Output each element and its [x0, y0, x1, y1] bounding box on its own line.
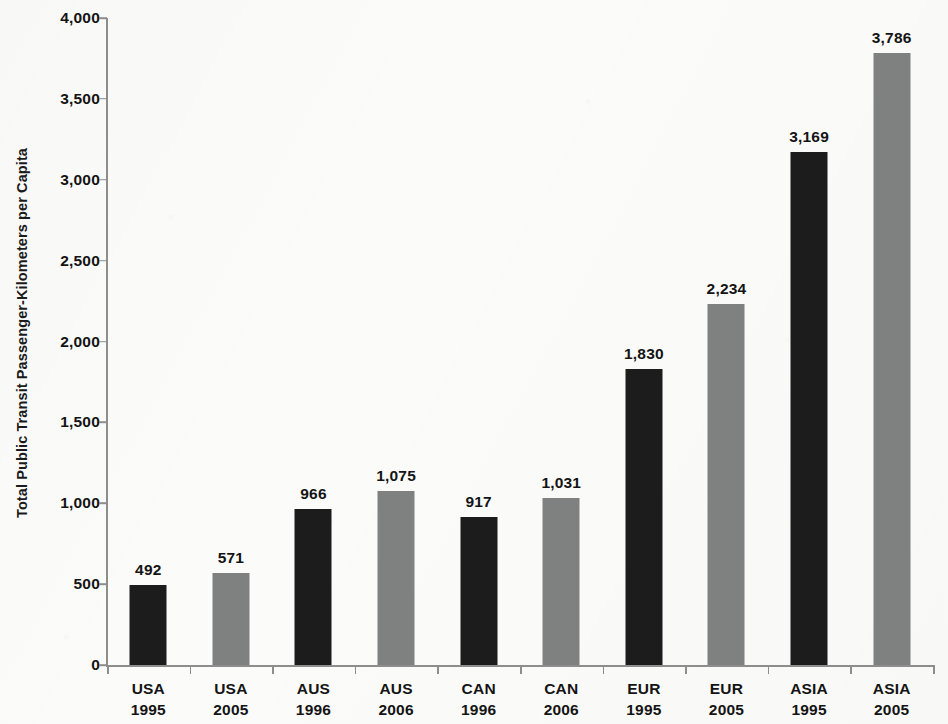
x-axis-tick-mark [850, 665, 852, 674]
category-region: ASIA [790, 680, 828, 697]
x-axis-category-label: ASIA1995 [768, 678, 851, 720]
bar [791, 152, 828, 665]
bar-value-label: 1,031 [541, 474, 581, 492]
x-axis-tick-mark [768, 665, 770, 674]
category-year: 1995 [768, 699, 851, 720]
bar [130, 585, 167, 665]
x-axis-tick-mark [272, 665, 274, 674]
y-axis-tick-label: 1,000 [38, 494, 100, 512]
bar-group: 3,169 [768, 18, 851, 665]
x-axis-category-label: AUS2006 [355, 678, 438, 720]
category-year: 1995 [107, 699, 190, 720]
bar-value-label: 571 [218, 549, 244, 567]
bar-value-label: 1,830 [624, 345, 664, 363]
bar-value-label: 917 [465, 493, 491, 511]
y-axis-tick-label: 2,000 [38, 333, 100, 351]
bar [378, 491, 415, 665]
bar [543, 498, 580, 665]
bar [212, 573, 249, 665]
bar-value-label: 492 [135, 561, 161, 579]
y-axis-tick-mark [99, 17, 107, 19]
x-axis-category-label: AUS1996 [272, 678, 355, 720]
bar [708, 304, 745, 665]
x-axis-category-label: EUR1995 [603, 678, 686, 720]
y-axis-tick-mark [99, 664, 107, 666]
x-axis-tick-mark [107, 665, 109, 674]
bar-value-label: 3,169 [789, 128, 829, 146]
category-region: AUS [297, 680, 330, 697]
category-year: 2005 [685, 699, 768, 720]
bar-group: 1,830 [603, 18, 686, 665]
bar-group: 917 [437, 18, 520, 665]
bar-group: 1,075 [355, 18, 438, 665]
category-year: 2006 [520, 699, 603, 720]
category-region: USA [132, 680, 165, 697]
bar-group: 966 [272, 18, 355, 665]
bar-value-label: 1,075 [376, 467, 416, 485]
bar-group: 2,234 [685, 18, 768, 665]
x-axis-category-label: CAN2006 [520, 678, 603, 720]
category-year: 2006 [355, 699, 438, 720]
x-axis-tick-mark [933, 665, 935, 674]
bar-group: 1,031 [520, 18, 603, 665]
y-axis-tick-labels: 4,0003,5003,0002,5002,0001,5001,0005000 [30, 0, 100, 724]
x-axis-category-label: EUR2005 [685, 678, 768, 720]
bar-group: 492 [107, 18, 190, 665]
bar [295, 509, 332, 665]
category-year: 1996 [437, 699, 520, 720]
x-axis-tick-mark [355, 665, 357, 674]
x-axis-category-labels: USA1995USA2005AUS1996AUS2006CAN1996CAN20… [107, 678, 933, 724]
y-axis-tick-mark [99, 179, 107, 181]
y-axis-tick-label: 2,500 [38, 252, 100, 270]
bar [625, 369, 662, 665]
bar-group: 3,786 [850, 18, 933, 665]
category-region: EUR [627, 680, 660, 697]
x-axis-category-label: USA1995 [107, 678, 190, 720]
bar-value-label: 3,786 [872, 29, 912, 47]
y-axis-tick-mark [99, 502, 107, 504]
x-axis-category-label: ASIA2005 [850, 678, 933, 720]
category-region: ASIA [873, 680, 911, 697]
y-axis-tick-label: 3,000 [38, 171, 100, 189]
x-axis-tick-mark [603, 665, 605, 674]
category-year: 1996 [272, 699, 355, 720]
category-region: CAN [544, 680, 578, 697]
bar-value-label: 2,234 [707, 280, 747, 298]
y-axis-tick-mark [99, 583, 107, 585]
y-axis-tick-label: 1,500 [38, 413, 100, 431]
y-axis-tick-label: 0 [38, 656, 100, 674]
category-year: 2005 [190, 699, 273, 720]
y-axis-tick-mark [99, 260, 107, 262]
x-axis-category-label: USA2005 [190, 678, 273, 720]
category-region: CAN [462, 680, 496, 697]
y-axis-tick-mark [99, 422, 107, 424]
y-axis-tick-mark [99, 341, 107, 343]
bar-value-label: 966 [300, 485, 326, 503]
bar [873, 53, 910, 665]
y-axis-tick-label: 4,000 [38, 9, 100, 27]
x-axis-tick-mark [437, 665, 439, 674]
bar-group: 571 [190, 18, 273, 665]
x-axis-tick-mark [520, 665, 522, 674]
category-year: 2005 [850, 699, 933, 720]
y-axis-title-text: Total Public Transit Passenger-Kilometer… [14, 148, 30, 518]
category-region: EUR [710, 680, 743, 697]
y-axis-tick-label: 500 [38, 575, 100, 593]
x-axis-category-label: CAN1996 [437, 678, 520, 720]
category-region: USA [214, 680, 247, 697]
y-axis-tick-mark [99, 98, 107, 100]
x-axis-tick-mark [685, 665, 687, 674]
category-year: 1995 [603, 699, 686, 720]
bar-chart: Total Public Transit Passenger-Kilometer… [0, 0, 948, 724]
plot-area: 4925719661,0759171,0311,8302,2343,1693,7… [107, 18, 933, 665]
y-axis-tick-label: 3,500 [38, 90, 100, 108]
category-region: AUS [379, 680, 412, 697]
bar [460, 517, 497, 665]
x-axis-tick-mark [190, 665, 192, 674]
